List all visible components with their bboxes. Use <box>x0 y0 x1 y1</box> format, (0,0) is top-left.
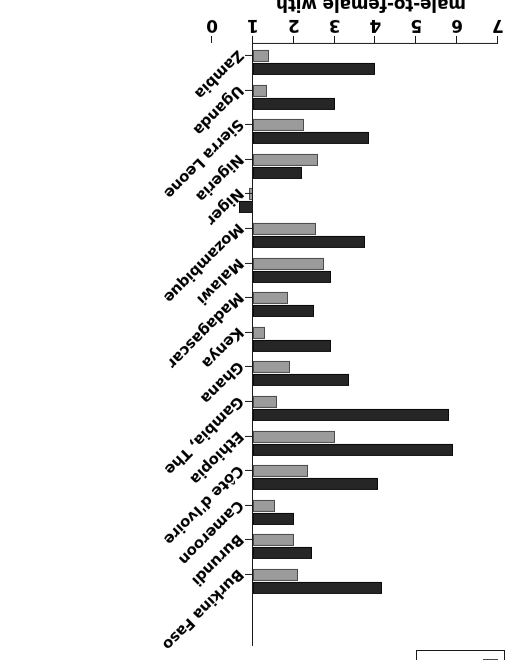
category-axis-tick <box>245 90 252 91</box>
bar-total <box>253 374 349 386</box>
bar-group <box>253 283 498 318</box>
bar-urban <box>253 534 294 546</box>
value-axis-tick-label: 6 <box>437 16 477 36</box>
bar-total <box>253 478 378 490</box>
bar-group <box>253 213 498 248</box>
bar-urban <box>253 292 288 304</box>
bar-total <box>253 409 449 421</box>
bar-urban <box>253 223 316 235</box>
value-axis-line <box>252 43 498 44</box>
category-axis-tick <box>245 228 252 229</box>
category-axis-tick <box>245 193 252 194</box>
value-axis-tick <box>415 36 416 43</box>
bar-urban <box>253 431 335 443</box>
value-axis-tick <box>375 36 376 43</box>
value-axis-tick <box>293 36 294 43</box>
category-axis-tick <box>245 401 252 402</box>
category-axis-tick <box>245 539 252 540</box>
bar-total <box>253 444 453 456</box>
plot-area: Burkina FasoBurundiCameroonCôte d'Ivoire… <box>253 44 498 600</box>
bar-group <box>253 525 498 560</box>
bar-total <box>253 582 382 594</box>
value-axis-tick-label: 1 <box>233 16 273 36</box>
value-axis-tick-label: 0 <box>192 16 232 36</box>
category-axis-tick <box>245 366 252 367</box>
bar-group <box>253 40 498 75</box>
value-axis-tick-label: 3 <box>315 16 355 36</box>
bar-urban <box>253 327 265 339</box>
bar-urban <box>253 258 324 270</box>
bar-group <box>253 179 498 214</box>
value-axis-tick <box>252 36 253 43</box>
category-axis-tick <box>245 263 252 264</box>
category-axis-tick <box>245 574 252 575</box>
bar-total <box>253 340 331 352</box>
bar-group <box>253 559 498 594</box>
value-axis-tick <box>497 36 498 43</box>
category-axis-tick <box>245 505 252 506</box>
category-axis-tick <box>245 124 252 125</box>
bar-urban <box>253 154 318 166</box>
bar-urban <box>253 50 269 62</box>
category-axis-line <box>252 43 253 646</box>
value-axis-tick <box>334 36 335 43</box>
bar-group <box>253 490 498 525</box>
bar-urban <box>253 361 290 373</box>
value-axis-tick-label: 7 <box>478 16 511 36</box>
bar-total <box>253 547 312 559</box>
bar-total <box>253 98 335 110</box>
bar-total <box>253 167 302 179</box>
chart-legend: urban <box>416 650 505 660</box>
category-axis-tick <box>245 159 252 160</box>
bar-total <box>253 513 294 525</box>
bar-group <box>253 248 498 283</box>
category-axis-tick <box>245 436 252 437</box>
bar-total <box>253 305 314 317</box>
bar-urban <box>253 500 275 512</box>
value-axis-tick <box>456 36 457 43</box>
bar-urban <box>253 569 298 581</box>
bar-total <box>253 132 369 144</box>
bar-group <box>253 75 498 110</box>
bar-total <box>253 236 365 248</box>
value-axis-title: male-to-female with tertiary education <box>231 0 511 15</box>
value-axis-tick <box>211 36 212 43</box>
axis-title-line-1: male-to-female with <box>231 0 511 15</box>
value-axis-tick-label: 4 <box>356 16 396 36</box>
bar-urban <box>253 119 304 131</box>
value-axis-tick-label: 2 <box>274 16 314 36</box>
chart-figure: Burkina FasoBurundiCameroonCôte d'Ivoire… <box>0 0 511 660</box>
bar-group <box>253 317 498 352</box>
bar-urban <box>253 85 267 97</box>
bar-total <box>253 63 376 75</box>
bar-group <box>253 421 498 456</box>
category-axis-tick <box>245 55 252 56</box>
category-axis-tick <box>245 470 252 471</box>
bar-group <box>253 144 498 179</box>
bar-total <box>253 271 331 283</box>
bar-group <box>253 386 498 421</box>
bar-group <box>253 456 498 491</box>
bar-group <box>253 110 498 145</box>
bar-urban <box>253 465 308 477</box>
value-axis-tick-label: 5 <box>396 16 436 36</box>
bar-urban <box>253 396 278 408</box>
bar-group <box>253 352 498 387</box>
category-axis-tick <box>245 297 252 298</box>
category-axis-tick <box>245 332 252 333</box>
